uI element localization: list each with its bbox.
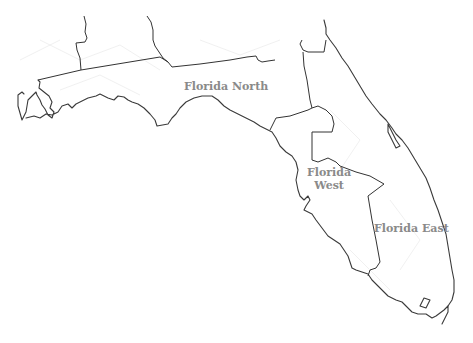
florida-map	[0, 0, 473, 343]
north-state-borders	[38, 16, 275, 80]
region-label-florida-north: Florida North	[184, 80, 268, 93]
region-boundaries	[270, 40, 384, 276]
florida-outline	[18, 20, 454, 324]
region-label-florida-west: Florida West	[307, 166, 351, 192]
region-label-florida-east: Florida East	[374, 222, 449, 235]
county-lines	[20, 40, 420, 290]
region-label-florida-west-line1: Florida	[307, 166, 351, 179]
region-label-florida-west-line2: West	[307, 179, 351, 192]
